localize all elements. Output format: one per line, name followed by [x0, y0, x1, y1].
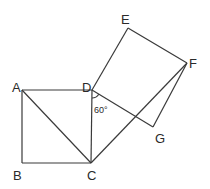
label-f: F: [189, 56, 197, 71]
segment-fg: [153, 63, 187, 127]
segment-de: [92, 28, 128, 90]
angle-arc-d: [92, 94, 99, 98]
segment-cd: [91, 90, 92, 163]
label-b: B: [13, 168, 22, 183]
label-g: G: [155, 131, 165, 146]
label-c: C: [87, 168, 96, 183]
segment-ef: [128, 28, 187, 63]
segment-ac: [22, 90, 91, 163]
angle-label: 60°: [94, 105, 108, 115]
geometry-diagram: A B C D E F G 60°: [0, 0, 210, 189]
label-d: D: [82, 80, 91, 95]
label-e: E: [121, 12, 130, 27]
label-a: A: [12, 80, 21, 95]
